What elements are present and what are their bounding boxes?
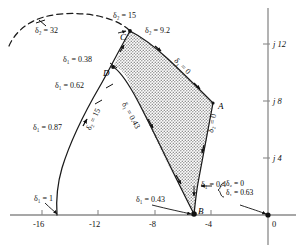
origin-marker [265,212,270,217]
label-delta1-0p62: δ₁ = 0.62 [55,82,84,90]
x-tick-label-neg8: -8 [149,219,156,229]
x-tick-label-neg12: -12 [89,219,100,229]
root-locus-chart: -16 -12 -8 -4 0 j 12 j 8 j 4 A B C D δ₂ … [0,0,302,251]
label-delta2-15-top: δ₂ = 15 [113,12,136,20]
point-label-A: A [218,101,224,111]
curve-upper-dashed [9,13,130,46]
y-tick-label-j8: j 8 [273,96,282,106]
y-tick-label-j12: j 12 [273,39,286,49]
label-delta2-32: δ₂ = 32 [35,27,58,35]
label-delta1-1: δ₁ = 1 [34,195,53,203]
point-B-marker [191,211,197,217]
y-tick-label-j4: j 4 [273,153,282,163]
label-delta1-0p43-arrow: δ₁ = 0.43 [136,196,165,204]
point-D-marker [111,65,115,69]
label-delta2-9p2: δ₂ = 9.2 [145,27,170,35]
label-delta1-0p4: δ₁ = 0.4 [201,181,226,189]
label-delta1-0p87: δ₁ = 0.87 [33,124,62,132]
point-A-marker [211,101,214,104]
point-label-C: C [120,32,126,42]
brace-annotation: δ₂ = 0 δ₁ = 0.63 [226,179,253,198]
point-label-B: B [198,206,204,216]
x-tick-label-neg4: -4 [205,219,212,229]
x-tick-label-0: 0 [272,219,276,229]
label-delta1-0p38: δ₁ = 0.38 [63,56,92,64]
brace-line-delta1-0p63: δ₁ = 0.63 [226,188,253,197]
point-C-marker [128,29,132,33]
point-label-D: D [103,68,110,78]
y-axis-ticks [263,44,270,158]
x-tick-label-neg16: -16 [33,219,44,229]
brace-line-delta2-0: δ₂ = 0 [226,179,253,188]
